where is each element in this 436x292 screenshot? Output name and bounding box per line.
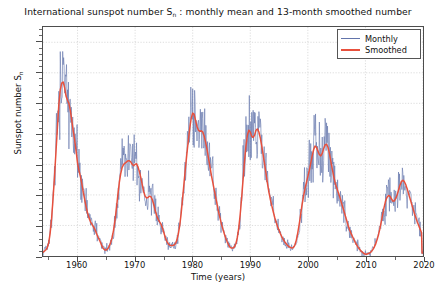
sunspot-chart-figure: International sunspot number Sn : monthl… bbox=[0, 0, 436, 292]
x-tick-label: 2020 bbox=[404, 260, 436, 270]
y-axis-label-subscript: n bbox=[18, 71, 24, 75]
x-tick-mark bbox=[192, 257, 193, 262]
x-tick-minor bbox=[164, 257, 165, 260]
plot-area bbox=[42, 26, 424, 257]
x-tick-minor bbox=[279, 257, 280, 260]
x-tick-minor bbox=[395, 257, 396, 260]
data-series bbox=[43, 27, 423, 256]
chart-title-rest: : monthly mean and 13-month smoothed num… bbox=[176, 6, 411, 17]
x-axis-label: Time (years) bbox=[0, 272, 436, 282]
x-tick-mark bbox=[366, 257, 367, 262]
legend-label-monthly: Monthly bbox=[365, 34, 398, 44]
legend-swatch-smoothed bbox=[341, 49, 360, 51]
chart-title: International sunspot number Sn : monthl… bbox=[0, 6, 436, 17]
x-tick-mark bbox=[250, 257, 251, 262]
x-tick-minor bbox=[221, 257, 222, 260]
x-tick-mark bbox=[424, 257, 425, 262]
legend-item-smoothed: Smoothed bbox=[341, 44, 416, 55]
chart-title-main: International sunspot number S bbox=[24, 6, 172, 17]
x-tick-mark bbox=[77, 257, 78, 262]
y-axis-label: Sunspot number Sn bbox=[13, 18, 23, 208]
legend-item-monthly: Monthly bbox=[341, 33, 416, 44]
y-axis-label-main: Sunspot number S bbox=[13, 75, 23, 154]
chart-title-subscript: n bbox=[172, 11, 176, 18]
x-tick-mark bbox=[135, 257, 136, 262]
x-tick-mark bbox=[308, 257, 309, 262]
x-tick-minor bbox=[48, 257, 49, 260]
x-tick-minor bbox=[106, 257, 107, 260]
x-tick-minor bbox=[337, 257, 338, 260]
y-tick-mark bbox=[36, 257, 42, 258]
legend-swatch-monthly bbox=[341, 38, 360, 39]
legend-label-smoothed: Smoothed bbox=[365, 45, 407, 55]
chart-legend: Monthly Smoothed bbox=[337, 29, 421, 59]
